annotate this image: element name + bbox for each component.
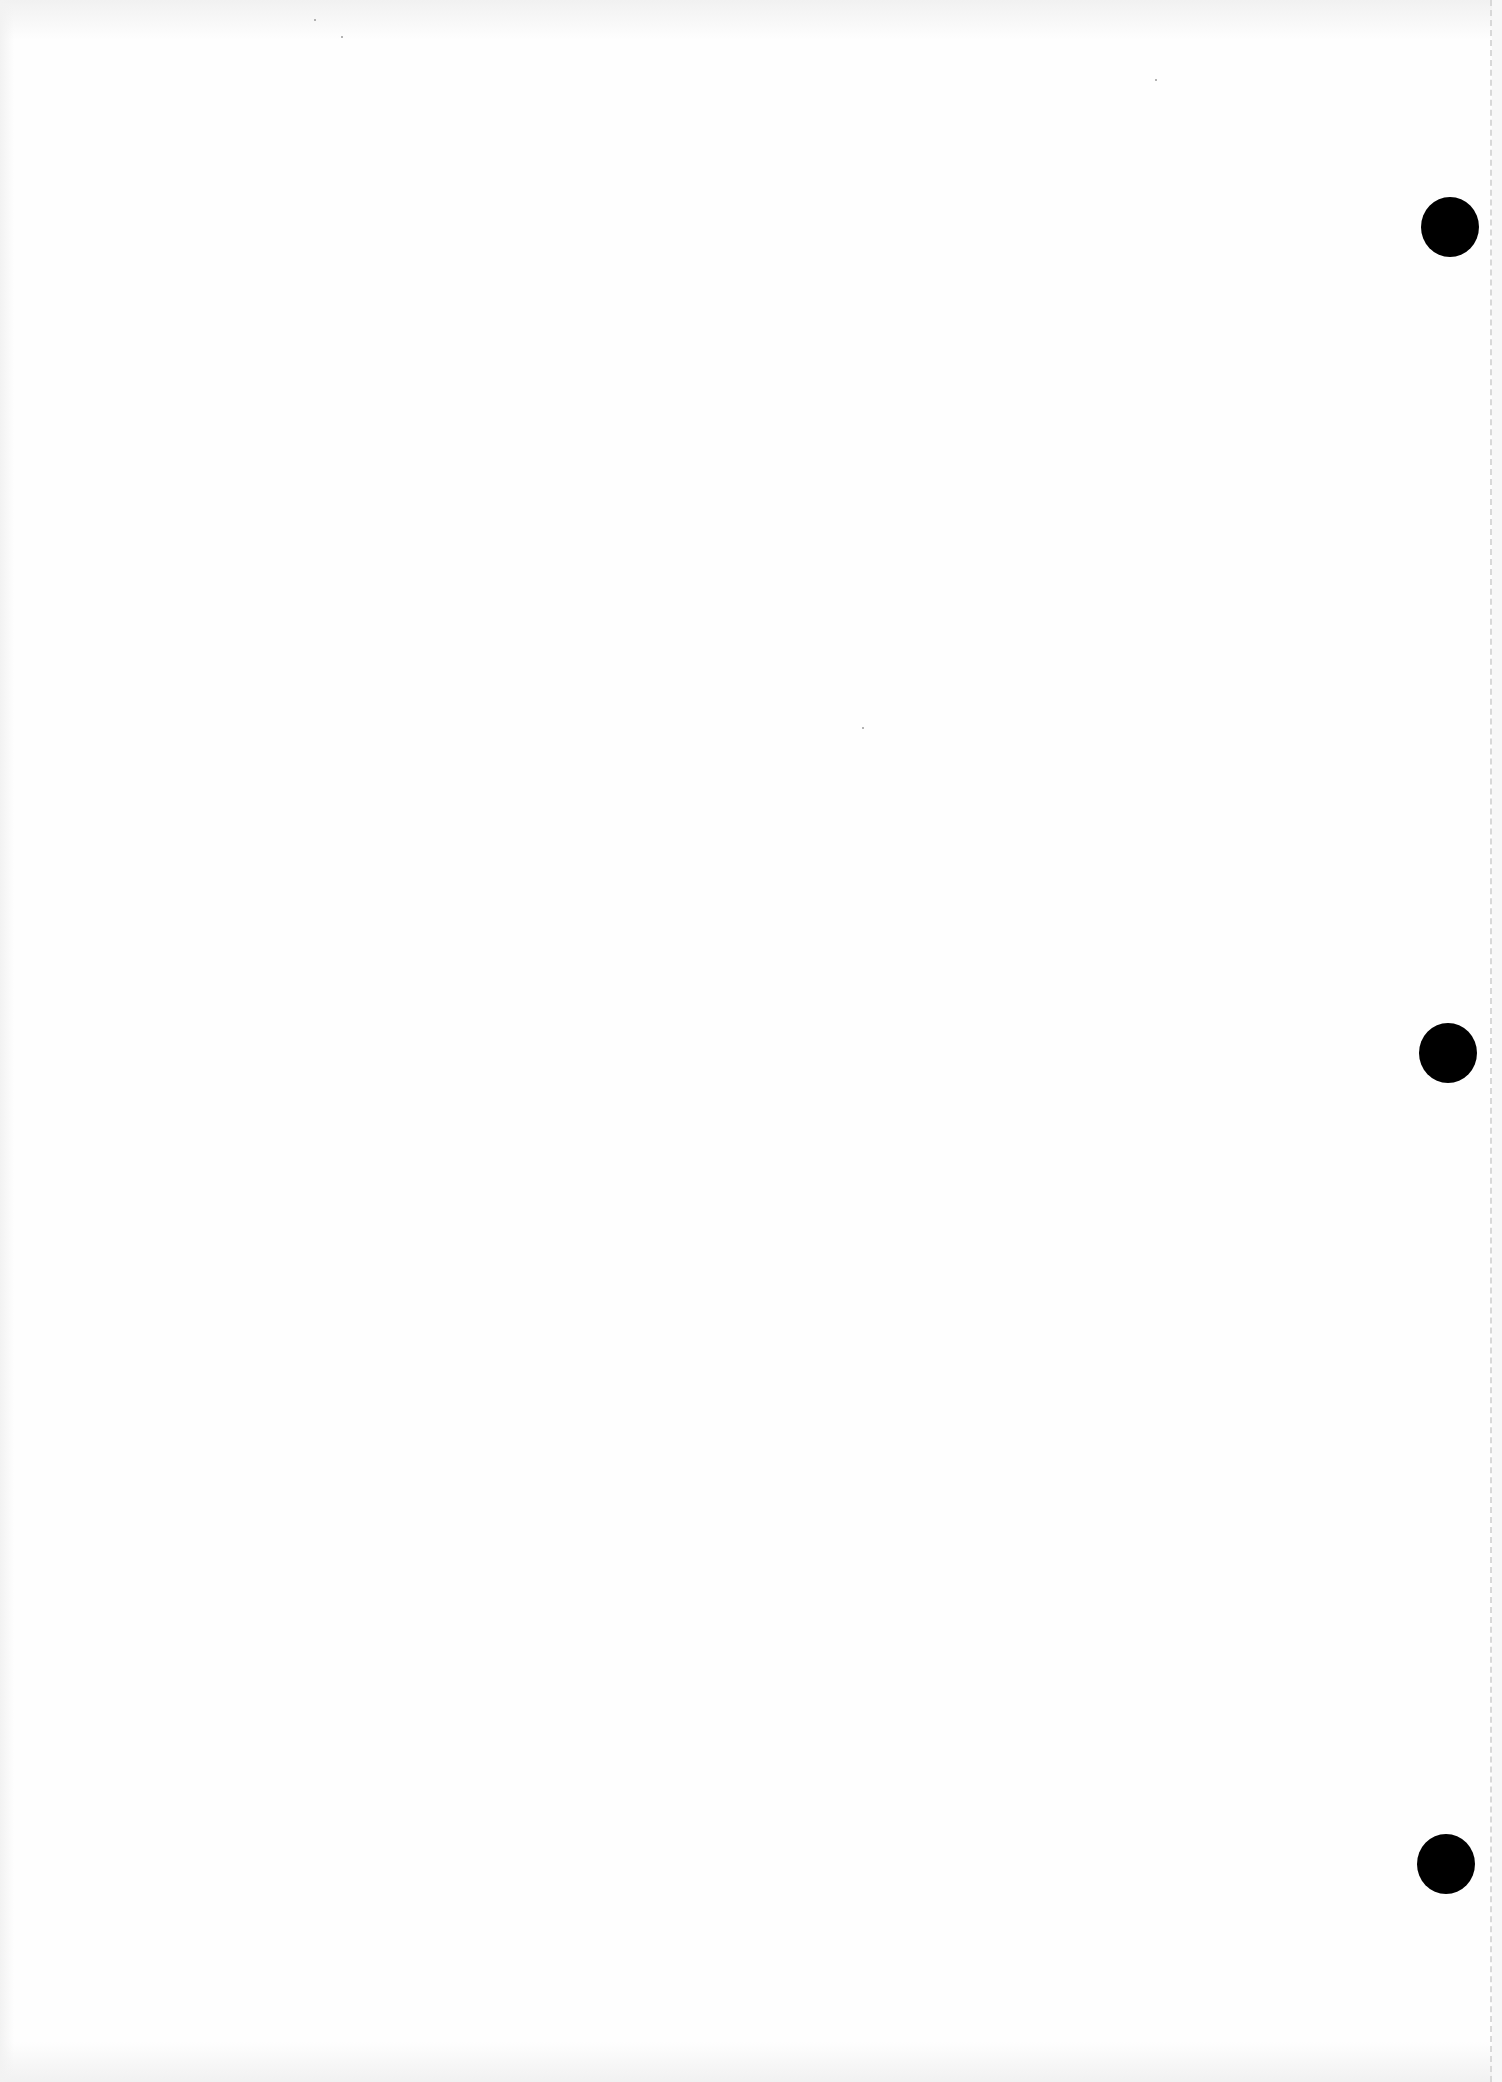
page-right-margin-strip (1492, 0, 1502, 2082)
dust-speck (341, 36, 343, 38)
dust-speck (314, 19, 316, 21)
dust-speck (862, 727, 864, 729)
scan-shadow-bottom (0, 2042, 1502, 2082)
punch-hole-top (1421, 197, 1479, 257)
blank-page (0, 0, 1502, 2082)
scan-shadow-top (0, 0, 1502, 40)
dust-speck (1155, 79, 1157, 81)
dashed-edge-line (1490, 0, 1492, 2082)
punch-hole-bottom (1417, 1834, 1475, 1894)
punch-hole-middle (1419, 1023, 1477, 1083)
scan-shadow-left (0, 0, 14, 2082)
